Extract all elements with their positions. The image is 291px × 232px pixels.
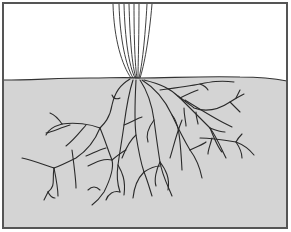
soil-area	[4, 77, 287, 227]
root-system-diagram	[0, 0, 291, 232]
diagram-canvas	[0, 0, 291, 232]
